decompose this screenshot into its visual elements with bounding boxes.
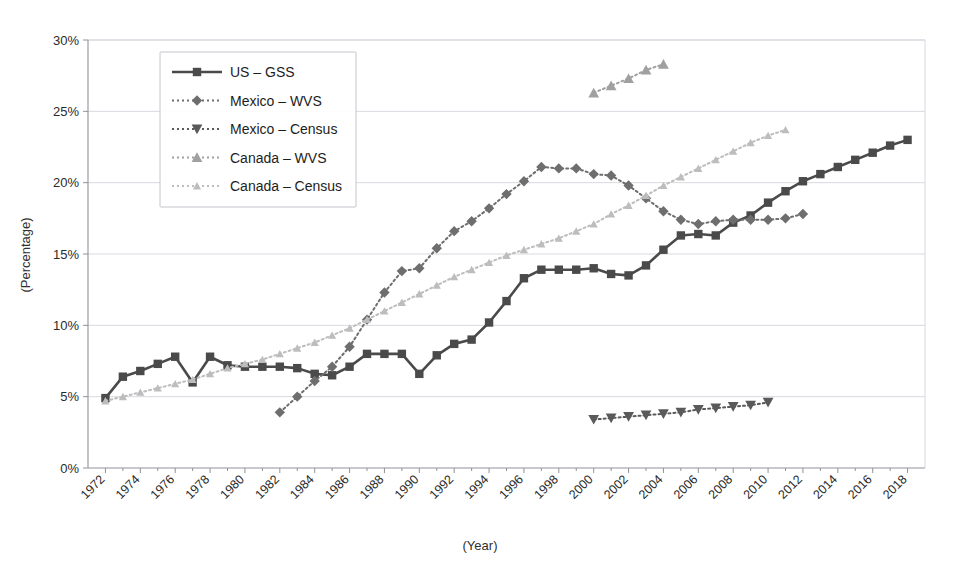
data-point-marker [572,265,580,273]
data-point-marker [886,141,894,149]
data-point-marker [433,351,441,359]
data-point-marker [171,353,179,361]
data-point-marker [119,372,127,380]
data-point-marker [712,231,720,239]
data-point-marker [659,246,667,254]
legend-item-label: Mexico – WVS [230,93,322,109]
y-axis-title: (Percentage) [18,217,33,292]
data-point-marker [816,170,824,178]
y-tick-label: 15% [53,247,79,262]
data-point-marker [398,350,406,358]
y-tick-label: 20% [53,175,79,190]
data-point-marker [624,271,632,279]
data-point-marker [136,367,144,375]
data-point-marker [903,136,911,144]
data-point-marker [834,163,842,171]
data-point-marker [193,68,201,76]
data-point-marker [467,335,475,343]
data-point-marker [642,261,650,269]
data-point-marker [485,318,493,326]
chart-container: 0%5%10%15%20%25%30% 19721974197619781980… [0,0,969,578]
data-point-marker [607,270,615,278]
data-point-marker [363,350,371,358]
legend-item-label: Canada – WVS [230,150,327,166]
y-tick-label: 30% [53,33,79,48]
data-point-marker [868,149,876,157]
data-point-marker [502,297,510,305]
data-point-marker [694,230,702,238]
data-point-marker [589,264,597,272]
y-tick-label: 0% [60,461,79,476]
x-axis-title: (Year) [463,538,498,553]
data-point-marker [555,265,563,273]
y-tick-label: 5% [60,389,79,404]
data-point-marker [258,363,266,371]
data-point-marker [415,370,423,378]
line-chart: 0%5%10%15%20%25%30% 19721974197619781980… [0,0,969,578]
data-point-marker [799,177,807,185]
data-point-marker [764,198,772,206]
data-point-marker [380,350,388,358]
data-point-marker [537,265,545,273]
data-point-marker [328,371,336,379]
data-point-marker [450,340,458,348]
legend-item-label: Mexico – Census [230,121,337,137]
data-point-marker [154,360,162,368]
data-point-marker [276,363,284,371]
data-point-marker [520,274,528,282]
data-point-marker [206,353,214,361]
data-point-marker [781,187,789,195]
data-point-marker [293,364,301,372]
data-point-marker [345,363,353,371]
data-point-marker [677,231,685,239]
legend-item-label: US – GSS [230,64,295,80]
legend-item-label: Canada – Census [230,178,342,194]
chart-legend: US – GSSMexico – WVSMexico – CensusCanad… [160,52,356,207]
y-tick-label: 25% [53,104,79,119]
y-tick-label: 10% [53,318,79,333]
data-point-marker [851,156,859,164]
